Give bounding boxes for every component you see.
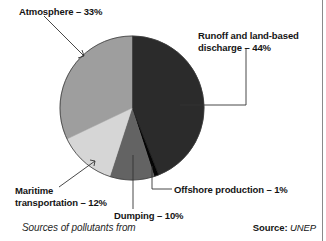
slice-label-dumping: Dumping – 10% — [114, 210, 183, 222]
source-value: UNEP — [290, 222, 316, 233]
figure-source: Source: UNEP — [253, 222, 316, 233]
figure-caption: Sources of pollutants from — [22, 222, 136, 233]
leader-line-atmosphere — [44, 16, 84, 56]
slice-label-runoff: Runoff and land-based discharge – 44% — [198, 30, 299, 53]
source-label: Source: — [253, 222, 288, 233]
slice-label-maritime-transportation: Maritime transportation – 12% — [15, 185, 107, 208]
pie-chart-figure: Atmosphere – 33% Runoff and land-based d… — [0, 0, 326, 241]
leader-line-maritime — [59, 161, 95, 187]
slice-label-atmosphere: Atmosphere – 33% — [19, 6, 102, 18]
slice-label-offshore-production: Offshore production – 1% — [174, 184, 288, 196]
